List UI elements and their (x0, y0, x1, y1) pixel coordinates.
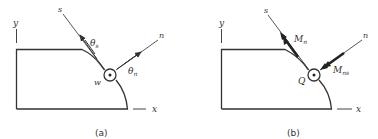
s-axis-line (63, 14, 105, 70)
caption-a: (a) (95, 128, 108, 138)
point-label: w (94, 78, 101, 87)
point-dot (109, 74, 112, 77)
s-axis-label: s (58, 5, 62, 14)
point-dot (313, 74, 316, 77)
caption-b: (b) (287, 128, 300, 138)
n-axis-label: n (363, 31, 368, 40)
s-axis-label: s (264, 6, 268, 15)
panel-b: y x s n Mn Mns Q (b) (218, 6, 368, 138)
theta-s-label: θs (90, 38, 99, 49)
y-axis-label: y (12, 18, 19, 28)
moment-mns-label: Mns (332, 65, 349, 76)
theta-n-arrow-shaft (124, 54, 138, 64)
n-axis-label: n (159, 31, 164, 40)
panel-a: y x s n θs θn w (a) (12, 5, 164, 138)
y-axis-label: y (218, 18, 225, 28)
point-label: Q (298, 76, 306, 86)
moment-mn-label: Mn (293, 34, 307, 45)
x-axis-label: x (356, 104, 361, 114)
diagram-canvas: y x s n θs θn w (a) y x s (0, 0, 378, 139)
x-axis-label: x (152, 104, 157, 114)
theta-n-label: θn (128, 66, 137, 77)
